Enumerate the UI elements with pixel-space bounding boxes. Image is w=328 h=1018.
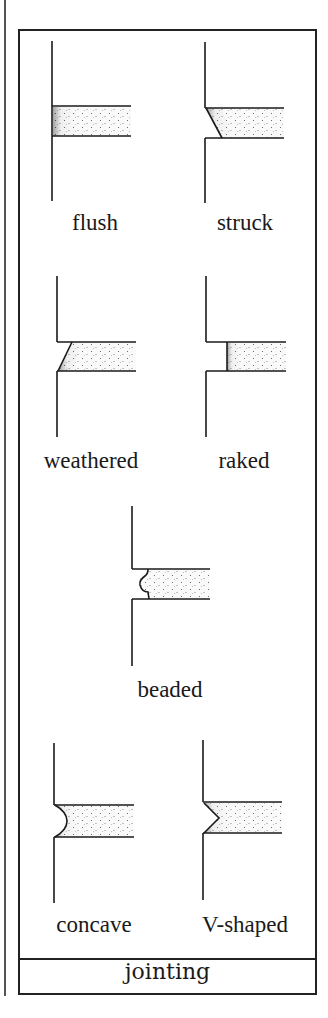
label-flush: flush	[72, 210, 118, 236]
beaded-joint-diagram	[132, 506, 210, 666]
label-v-shaped: V-shaped	[202, 912, 288, 938]
label-concave: concave	[56, 912, 131, 938]
label-beaded: beaded	[137, 677, 202, 703]
label-weathered: weathered	[44, 448, 139, 474]
label-raked: raked	[218, 448, 269, 474]
raked-joint-diagram	[206, 276, 286, 437]
struck-joint-diagram	[205, 42, 284, 203]
jointing-diagrams	[0, 0, 328, 1018]
flush-joint-diagram	[52, 41, 131, 201]
concave-joint-diagram	[54, 743, 134, 903]
label-struck: struck	[217, 210, 273, 236]
weathered-joint-diagram	[57, 276, 136, 437]
v-shaped-joint-diagram	[203, 740, 282, 900]
